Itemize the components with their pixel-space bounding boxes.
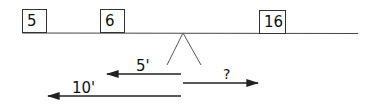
weight-box-5: 5 — [22, 9, 47, 33]
fulcrum — [167, 33, 201, 65]
distance-label-unknown: ? — [223, 67, 230, 82]
beam — [22, 33, 358, 34]
distance-label-5ft: 5' — [136, 59, 150, 74]
weight-box-16: 16 — [259, 10, 286, 34]
weight-label: 16 — [264, 13, 283, 31]
weight-box-6: 6 — [100, 9, 125, 33]
weight-label: 5 — [27, 12, 37, 30]
distance-label-10ft: 10' — [72, 81, 95, 96]
lever-diagram — [0, 0, 375, 110]
weight-label: 6 — [105, 12, 115, 30]
